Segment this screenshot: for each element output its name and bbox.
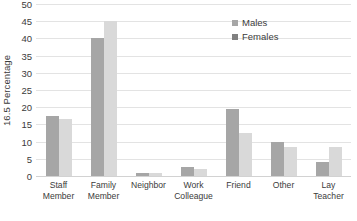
bar-group [171, 4, 216, 176]
legend-item-males[interactable]: Males [232, 17, 278, 28]
y-axis-tick-label: 40 [21, 33, 32, 44]
bar-males [226, 109, 239, 176]
bar-chart: 16.5 Percentage 05101520253035404550 Sta… [0, 0, 357, 221]
x-axis-category-label: Lay Teacher [306, 180, 351, 218]
bar-females [329, 147, 342, 176]
bar-group [81, 4, 126, 176]
y-axis-tick-label: 20 [21, 102, 32, 113]
y-axis-tick-label: 25 [21, 85, 32, 96]
legend-item-females[interactable]: Females [232, 31, 278, 42]
bar-females [194, 169, 207, 176]
y-axis-tick-label: 35 [21, 50, 32, 61]
bar-females [59, 119, 72, 176]
bar-males [271, 142, 284, 176]
legend-swatch-icon [232, 20, 238, 26]
x-axis-category-label: Neighbor [126, 180, 171, 218]
y-axis-title-text: 16.5 Percentage [2, 54, 13, 125]
x-axis-category-labels: StaffMemberFamilyMemberNeighborWorkColle… [36, 180, 351, 218]
y-axis-tick-label: 45 [21, 16, 32, 27]
x-axis-category-label: WorkColleague [171, 180, 216, 218]
bar-females [284, 147, 297, 176]
legend-item-label: Females [242, 31, 278, 42]
bar-males [136, 173, 149, 176]
bar-group [306, 4, 351, 176]
y-axis-tick-label: 15 [21, 119, 32, 130]
bar-group [126, 4, 171, 176]
bar-males [91, 38, 104, 176]
legend-item-label: Males [242, 17, 267, 28]
y-axis-tick-label: 10 [21, 136, 32, 147]
x-axis-category-label: FamilyMember [81, 180, 126, 218]
x-axis-category-label: StaffMember [36, 180, 81, 218]
y-axis-tick-labels: 05101520253035404550 [14, 4, 34, 176]
bar-females [149, 173, 162, 176]
bar-males [316, 162, 329, 176]
bar-females [104, 21, 117, 176]
bar-males [46, 116, 59, 176]
axis-baseline [36, 176, 351, 177]
x-axis-category-label: Other [261, 180, 306, 218]
bar-group [36, 4, 81, 176]
x-axis-category-label: Friend [216, 180, 261, 218]
y-axis-tick-label: 30 [21, 67, 32, 78]
bar-females [239, 133, 252, 176]
bar-males [181, 167, 194, 176]
y-axis-tick-label: 0 [27, 171, 32, 182]
chart-legend: MalesFemales [232, 17, 278, 42]
y-axis-title: 16.5 Percentage [0, 0, 14, 180]
plot-area [36, 4, 351, 176]
y-axis-tick-label: 50 [21, 0, 32, 10]
y-axis-tick-label: 5 [27, 153, 32, 164]
bar-groups [36, 4, 351, 176]
legend-swatch-icon [232, 34, 238, 40]
